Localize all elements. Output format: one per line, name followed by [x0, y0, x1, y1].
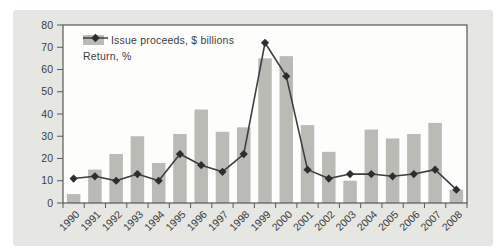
bar-1993: [131, 136, 145, 203]
bar-1999: [258, 58, 272, 203]
legend-label-return: Return, %: [83, 50, 132, 62]
y-tick-label: 30: [41, 130, 53, 142]
bar-1990: [67, 194, 81, 203]
x-tick-label: 2007: [418, 208, 443, 233]
bar-2006: [407, 134, 421, 203]
legend-item-return: Return, %: [83, 49, 234, 62]
x-tick-label: 1990: [57, 208, 82, 233]
x-tick-label: 1993: [120, 208, 145, 233]
bar-1996: [194, 110, 208, 203]
y-tick-label: 20: [41, 152, 53, 164]
bar-2005: [386, 138, 400, 203]
y-tick-label: 80: [41, 19, 53, 31]
legend-label-issue-proceeds: Issue proceeds, $ billions: [111, 34, 234, 46]
x-tick-label: 2000: [269, 208, 294, 233]
x-tick-label: 2008: [439, 208, 464, 233]
bar-1998: [237, 127, 251, 203]
bar-2007: [428, 123, 442, 203]
x-tick-label: 2006: [397, 208, 422, 233]
x-tick-label: 2003: [333, 208, 358, 233]
x-tick-label: 1991: [78, 208, 103, 233]
bar-2003: [343, 181, 357, 203]
bar-1995: [173, 134, 187, 203]
x-tick-label: 1998: [227, 208, 252, 233]
x-tick-label: 2001: [290, 208, 315, 233]
y-tick-label: 40: [41, 108, 53, 120]
bar-2004: [365, 130, 379, 203]
legend-line-marker-icon: [83, 33, 108, 43]
x-tick-label: 1995: [163, 208, 188, 233]
y-tick-label: 50: [41, 85, 53, 97]
legend: Issue proceeds, $ billions Return, %: [83, 33, 234, 62]
x-tick-label: 1997: [205, 208, 230, 233]
ipo-proceeds-return-figure: 0102030405060708019901991199219931994199…: [0, 0, 499, 251]
x-tick-label: 2005: [375, 208, 400, 233]
y-tick-label: 0: [47, 197, 53, 209]
x-tick-label: 2004: [354, 208, 379, 233]
chart-panel: 0102030405060708019901991199219931994199…: [13, 10, 493, 246]
y-tick-label: 10: [41, 174, 53, 186]
bar-2001: [301, 125, 315, 203]
x-tick-label: 1992: [99, 208, 124, 233]
y-tick-label: 70: [41, 41, 53, 53]
x-tick-label: 1999: [248, 208, 273, 233]
x-tick-label: 1994: [142, 208, 167, 233]
y-tick-label: 60: [41, 63, 53, 75]
x-tick-label: 2002: [312, 208, 337, 233]
x-tick-label: 1996: [184, 208, 209, 233]
